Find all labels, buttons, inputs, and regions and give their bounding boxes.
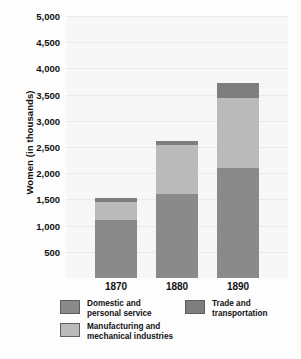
y-tick-label: 1,000 — [14, 220, 60, 231]
segment-manufacturing-1880 — [156, 145, 198, 194]
stacked-bar-chart: Women (in thousands) 5001,0001,5002,0002… — [0, 0, 301, 359]
legend-label-domestic: Domestic and personal service — [87, 299, 152, 318]
legend-item-domestic: Domestic and personal service — [60, 299, 152, 318]
chart-legend: Domestic and personal service Manufactur… — [60, 299, 295, 351]
segment-manufacturing-1890 — [217, 98, 259, 168]
segment-trade-1890 — [217, 83, 259, 98]
gridline — [66, 16, 288, 17]
y-tick-label: 1,500 — [14, 194, 60, 205]
y-tick-label: 2,000 — [14, 168, 60, 179]
x-tick-label-1880: 1880 — [142, 281, 212, 292]
y-tick-label: 5,000 — [14, 11, 60, 22]
gridline — [66, 68, 288, 69]
manufacturing-swatch — [60, 323, 80, 337]
legend-label-trade: Trade and transportation — [212, 299, 268, 318]
legend-item-manufacturing: Manufacturing and mechanical industries — [60, 322, 173, 341]
legend-label-manufacturing: Manufacturing and mechanical industries — [87, 322, 173, 341]
y-tick-label: 2,500 — [14, 142, 60, 153]
plot-area — [66, 16, 288, 278]
y-tick-label: 3,000 — [14, 115, 60, 126]
segment-domestic-1870 — [95, 220, 137, 278]
y-tick-label: 3,500 — [14, 89, 60, 100]
x-tick-label-1890: 1890 — [203, 281, 273, 292]
gridline — [66, 42, 288, 43]
legend-item-trade: Trade and transportation — [185, 299, 268, 318]
bar-1880 — [156, 141, 198, 278]
x-tick-label-1870: 1870 — [81, 281, 151, 292]
y-tick-label: 4,500 — [14, 37, 60, 48]
segment-domestic-1890 — [217, 168, 259, 278]
y-tick-label: 4,000 — [14, 63, 60, 74]
y-tick-label: 500 — [14, 246, 60, 257]
bar-1890 — [217, 83, 259, 278]
segment-manufacturing-1870 — [95, 202, 137, 221]
segment-domestic-1880 — [156, 194, 198, 278]
bar-1870 — [95, 198, 137, 278]
trade-swatch — [185, 300, 205, 314]
domestic-swatch — [60, 300, 80, 314]
